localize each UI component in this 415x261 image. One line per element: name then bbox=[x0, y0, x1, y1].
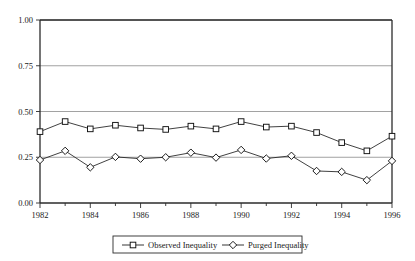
y-tick-label: 1.00 bbox=[18, 15, 33, 25]
x-tick-label: 1984 bbox=[82, 210, 100, 220]
square-marker bbox=[163, 127, 169, 133]
x-tick-label: 1990 bbox=[233, 210, 250, 220]
square-marker bbox=[138, 125, 144, 131]
square-marker bbox=[37, 129, 43, 135]
x-tick-label: 1992 bbox=[283, 210, 300, 220]
legend-items-group: Observed InequalityPurged Inequality bbox=[122, 240, 309, 250]
y-tick-label: 0.50 bbox=[18, 107, 33, 117]
chart-svg: 0.000.250.500.751.00 1982198419861988199… bbox=[0, 0, 415, 261]
y-tick-label: 0.25 bbox=[18, 152, 33, 162]
square-marker bbox=[238, 119, 244, 125]
square-marker bbox=[339, 140, 345, 146]
x-tick-label: 1994 bbox=[333, 210, 351, 220]
square-marker bbox=[314, 130, 320, 136]
x-tick-label: 1988 bbox=[182, 210, 199, 220]
square-marker bbox=[289, 123, 295, 129]
chart-legend: Observed InequalityPurged Inequality bbox=[113, 236, 309, 253]
x-tick-label: 1996 bbox=[384, 210, 401, 220]
x-tick-label: 1982 bbox=[32, 210, 49, 220]
square-marker bbox=[213, 126, 219, 132]
square-marker bbox=[364, 148, 370, 154]
chart-figure: 0.000.250.500.751.00 1982198419861988199… bbox=[0, 0, 415, 261]
x-tick-label: 1986 bbox=[132, 210, 149, 220]
legend-label: Observed Inequality bbox=[148, 240, 218, 250]
square-marker bbox=[188, 123, 194, 129]
square-marker bbox=[389, 133, 395, 139]
square-marker bbox=[62, 119, 68, 125]
square-marker bbox=[130, 242, 136, 248]
y-tick-label: 0.75 bbox=[18, 61, 33, 71]
chart-background bbox=[0, 0, 415, 261]
legend-label: Purged Inequality bbox=[248, 240, 309, 250]
y-tick-label: 0.00 bbox=[18, 198, 33, 208]
square-marker bbox=[263, 124, 269, 130]
square-marker bbox=[113, 122, 119, 128]
square-marker bbox=[87, 126, 93, 132]
